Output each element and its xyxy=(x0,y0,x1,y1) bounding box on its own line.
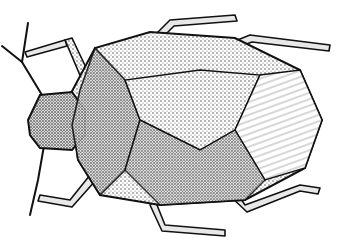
bug-illustration xyxy=(0,0,346,243)
shield-bug-drawing xyxy=(0,0,346,243)
